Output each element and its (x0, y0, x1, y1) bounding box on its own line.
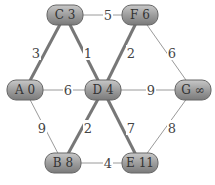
edge-weight-label: 6 (64, 83, 72, 98)
node-label: A 0 (14, 83, 35, 97)
nodes-layer: C 3F 6A 0D 4G ∞B 8E 11 (7, 5, 211, 173)
node-A[interactable]: A 0 (7, 80, 43, 100)
edge-weight-label: 6 (168, 46, 176, 61)
node-C[interactable]: C 3 (47, 5, 83, 25)
node-F[interactable]: F 6 (122, 5, 158, 25)
edge-weight-label: 7 (127, 121, 135, 136)
node-label: C 3 (55, 8, 76, 22)
edge-weight-label: 1 (84, 46, 92, 61)
graph-diagram: 315266992784 C 3F 6A 0D 4G ∞B 8E 11 (0, 0, 215, 185)
edge-weight-label: 8 (168, 121, 176, 136)
edge-weight-label: 2 (84, 121, 92, 136)
node-B[interactable]: B 8 (45, 153, 81, 173)
edge-weight-label: 5 (104, 8, 112, 23)
node-label: E 11 (126, 156, 154, 170)
edge-weight-label: 4 (104, 156, 112, 171)
node-label: F 6 (130, 8, 150, 22)
edge-weight-label: 2 (127, 46, 135, 61)
edge-weight-label: 9 (147, 83, 155, 98)
edge-weight-label: 9 (38, 121, 46, 136)
edge-weight-label: 3 (32, 46, 40, 61)
node-label: D 4 (92, 83, 113, 97)
node-label: B 8 (53, 156, 73, 170)
edge-G-E (140, 90, 193, 163)
node-G[interactable]: G ∞ (175, 80, 211, 100)
node-E[interactable]: E 11 (122, 153, 158, 173)
node-label: G ∞ (181, 83, 204, 97)
node-D[interactable]: D 4 (85, 80, 121, 100)
edge-F-G (140, 15, 193, 90)
